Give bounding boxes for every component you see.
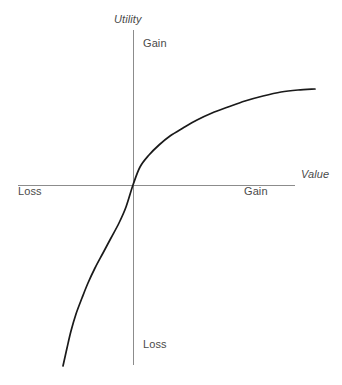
x-axis-title: Value	[301, 168, 329, 180]
x-axis-negative-label: Loss	[18, 185, 42, 197]
value-function-curve	[63, 89, 315, 366]
y-axis-title: Utility	[114, 13, 142, 25]
y-axis-positive-label: Gain	[143, 37, 167, 49]
y-axis-negative-label: Loss	[143, 338, 167, 350]
x-axis-positive-label: Gain	[244, 185, 268, 197]
chart-canvas	[0, 0, 342, 385]
utility-value-chart: Utility Gain Value Gain Loss Loss	[0, 0, 342, 385]
axes-group	[18, 30, 295, 365]
curve-group	[63, 89, 315, 366]
